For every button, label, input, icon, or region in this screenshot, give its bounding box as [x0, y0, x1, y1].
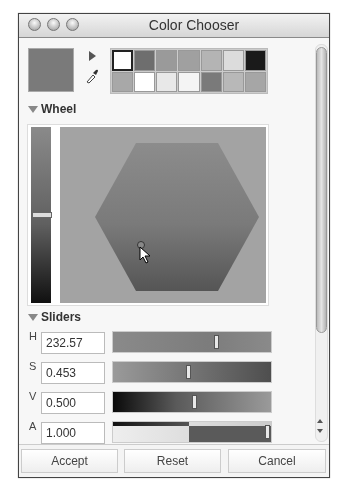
- color-chooser-window: Color Chooser Wheel Sliders: [18, 13, 330, 478]
- color-swatch[interactable]: [178, 50, 199, 71]
- slider-row-hue: H 232.57: [27, 328, 273, 355]
- color-swatch[interactable]: [178, 72, 199, 93]
- disclosure-triangle-icon: [28, 314, 38, 321]
- color-preview-swatch: [28, 48, 74, 92]
- color-swatch[interactable]: [245, 72, 266, 93]
- saturation-label: S: [29, 360, 36, 372]
- eyedropper-icon[interactable]: [85, 68, 99, 84]
- title-bar[interactable]: Color Chooser: [19, 14, 329, 38]
- color-wheel-panel: [27, 124, 269, 306]
- alpha-slider[interactable]: [112, 421, 272, 443]
- color-swatch[interactable]: [156, 50, 177, 71]
- value-slider-thumb[interactable]: [192, 395, 197, 409]
- hue-label: H: [29, 330, 37, 342]
- disclosure-triangle-icon: [28, 106, 38, 113]
- color-hexagon[interactable]: [95, 143, 259, 291]
- color-swatch[interactable]: [245, 50, 266, 71]
- hue-slider-thumb[interactable]: [214, 335, 219, 349]
- color-swatch[interactable]: [112, 50, 133, 71]
- saturation-slider[interactable]: [112, 361, 272, 383]
- color-swatch[interactable]: [134, 50, 155, 71]
- alpha-input[interactable]: 1.000: [41, 422, 105, 444]
- hue-saturation-area[interactable]: [60, 127, 266, 303]
- alpha-slider-thumb[interactable]: [265, 425, 270, 439]
- value-label: V: [29, 390, 36, 402]
- saturation-slider-thumb[interactable]: [186, 365, 191, 379]
- reset-button[interactable]: Reset: [124, 449, 221, 473]
- slider-row-alpha: A 1.000: [27, 418, 273, 445]
- scroll-up-arrow-icon[interactable]: [317, 419, 323, 423]
- color-swatch[interactable]: [201, 50, 222, 71]
- hue-input[interactable]: 232.57: [41, 332, 105, 354]
- hue-slider[interactable]: [112, 331, 272, 353]
- slider-row-value: V 0.500: [27, 388, 273, 415]
- brightness-thumb[interactable]: [32, 212, 52, 218]
- value-input[interactable]: 0.500: [41, 392, 105, 414]
- color-swatch[interactable]: [156, 72, 177, 93]
- alpha-fill: [189, 426, 271, 442]
- alpha-gradient-top: [113, 422, 189, 426]
- button-bar: Accept Reset Cancel: [19, 444, 329, 477]
- color-swatch[interactable]: [112, 72, 133, 93]
- wheel-section-header[interactable]: Wheel: [28, 102, 76, 116]
- mouse-pointer-icon: [139, 246, 153, 264]
- saturation-input[interactable]: 0.453: [41, 362, 105, 384]
- sliders-section-header[interactable]: Sliders: [28, 310, 81, 324]
- chooser-content: Wheel Sliders H 232.57 S: [19, 38, 329, 477]
- alpha-label: A: [29, 420, 36, 432]
- color-swatch[interactable]: [201, 72, 222, 93]
- scrollbar-thumb[interactable]: [316, 47, 327, 333]
- brightness-bar[interactable]: [31, 127, 51, 303]
- vertical-scrollbar[interactable]: [315, 44, 328, 442]
- window-title: Color Chooser: [19, 17, 329, 33]
- color-swatch[interactable]: [223, 72, 244, 93]
- cancel-button[interactable]: Cancel: [228, 449, 326, 473]
- add-swatch-arrow-icon[interactable]: [89, 51, 96, 61]
- swatch-palette: [110, 48, 268, 94]
- color-swatch[interactable]: [134, 72, 155, 93]
- color-swatch[interactable]: [223, 50, 244, 71]
- value-slider[interactable]: [112, 391, 272, 413]
- accept-button[interactable]: Accept: [21, 449, 118, 473]
- slider-row-saturation: S 0.453: [27, 358, 273, 385]
- scroll-down-arrow-icon[interactable]: [317, 429, 323, 433]
